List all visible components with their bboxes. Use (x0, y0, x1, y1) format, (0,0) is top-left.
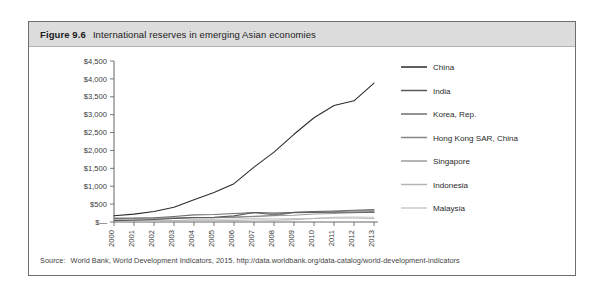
legend-label: Malaysia (433, 204, 465, 213)
y-axis-tick-label: $3,500 (84, 92, 107, 101)
legend-label: Hong Kong SAR, China (433, 134, 519, 143)
x-axis-tick-label: 2001 (127, 230, 136, 247)
x-axis-tick-label: 2010 (307, 230, 316, 247)
source-label: Source: (40, 256, 66, 265)
chart-legend: ChinaIndiaKorea, Rep.Hong Kong SAR, Chin… (401, 63, 519, 213)
x-axis-tick-label: 2006 (227, 230, 236, 247)
y-axis-tick-label: $1,500 (84, 164, 107, 173)
y-axis: $4,500$4,000$3,500$3,000$2,500$2,000$1,5… (84, 57, 114, 227)
source-note: Source: World Bank, World Development In… (40, 256, 460, 265)
y-axis-tick-label: $4,500 (84, 57, 107, 66)
chart-plot-area: $4,500$4,000$3,500$3,000$2,500$2,000$1,5… (29, 47, 575, 251)
x-axis-tick-label: 2013 (367, 230, 376, 247)
series-line (114, 83, 374, 216)
y-axis-tick-label: $1,000 (84, 182, 107, 191)
y-axis-tick-label: $4,000 (84, 75, 107, 84)
x-axis: 2000200120022003200420052006200720082009… (107, 222, 378, 247)
figure-title: International reserves in emerging Asian… (93, 29, 316, 40)
y-axis-tick-label: $2,500 (84, 128, 107, 137)
x-axis-tick-label: 2007 (247, 230, 256, 247)
x-axis-tick-label: 2002 (147, 230, 156, 247)
x-axis-tick-label: 2009 (287, 230, 296, 247)
x-axis-tick-label: 2008 (267, 230, 276, 247)
x-axis-tick-label: 2003 (167, 230, 176, 247)
legend-label: Indonesia (433, 181, 469, 190)
legend-label: Singapore (433, 157, 470, 166)
x-axis-tick-label: 2005 (207, 230, 216, 247)
x-axis-tick-label: 2000 (107, 230, 116, 247)
source-text: World Bank, World Development Indicators… (71, 256, 460, 265)
line-chart: $4,500$4,000$3,500$3,000$2,500$2,000$1,5… (29, 47, 577, 251)
x-axis-tick-label: 2011 (327, 230, 336, 246)
x-axis-tick-label: 2012 (347, 230, 356, 247)
y-axis-tick-label: $— (95, 218, 107, 227)
figure-title-band: Figure 9.6 International reserves in eme… (29, 22, 575, 47)
x-axis-tick-label: 2004 (187, 230, 196, 247)
legend-label: India (433, 87, 451, 96)
data-series-group (114, 83, 374, 221)
legend-label: China (433, 63, 455, 72)
figure-number: Figure 9.6 (40, 29, 86, 40)
y-axis-tick-label: $3,000 (84, 110, 107, 119)
y-axis-tick-label: $2,000 (84, 146, 107, 155)
legend-label: Korea, Rep. (433, 110, 476, 119)
y-axis-tick-label: $500 (90, 200, 107, 209)
figure-card: Figure 9.6 International reserves in eme… (28, 21, 576, 276)
